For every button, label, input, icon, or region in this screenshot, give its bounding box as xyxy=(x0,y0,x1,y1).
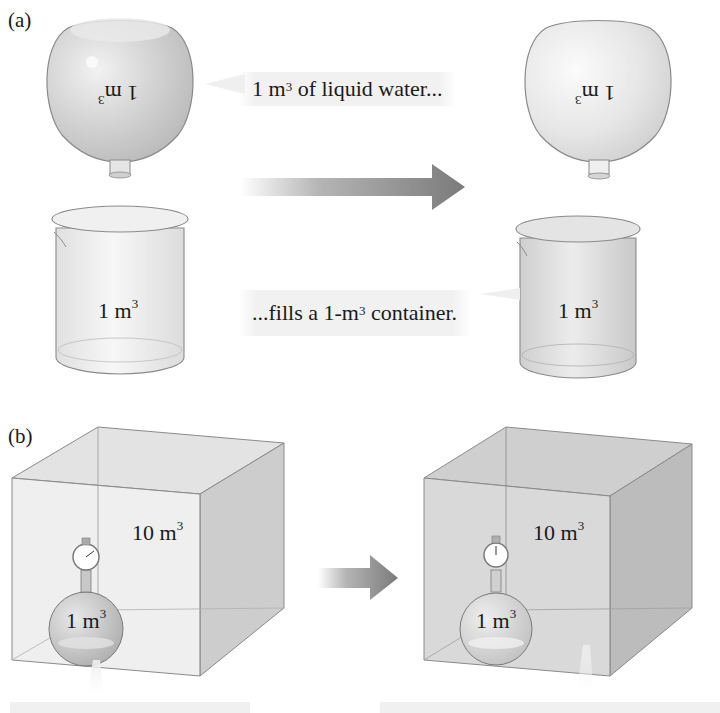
beaker-left-volume: 1 m3 xyxy=(98,298,138,324)
callout-liquid-water: 1 m3 of liquid water... xyxy=(238,72,456,106)
box-right-volume: 10 m3 xyxy=(533,520,584,546)
arrow-icon xyxy=(240,164,465,210)
callout-fills-container: ...fills a 1-m3 container. xyxy=(238,290,471,336)
arrow-icon xyxy=(318,555,398,600)
callout-pointer xyxy=(480,288,520,300)
callout-box-bottom-left xyxy=(10,702,250,713)
panel-b-label: (b) xyxy=(8,424,33,449)
beaker-right-icon xyxy=(516,216,640,378)
flask-b-left-volume: 1 m3 xyxy=(66,608,106,634)
panel-a-label: (a) xyxy=(8,8,31,33)
beaker-left-icon xyxy=(52,206,188,374)
flask-left-volume: 1 m3 xyxy=(98,80,138,106)
beaker-right-volume: 1 m3 xyxy=(558,298,598,324)
flask-b-right-volume: 1 m3 xyxy=(476,608,516,634)
flask-right-volume: 1 m3 xyxy=(575,80,615,106)
box-left-volume: 10 m3 xyxy=(132,520,183,546)
diagram-canvas xyxy=(0,0,720,713)
callout-box-bottom-right xyxy=(380,702,720,713)
